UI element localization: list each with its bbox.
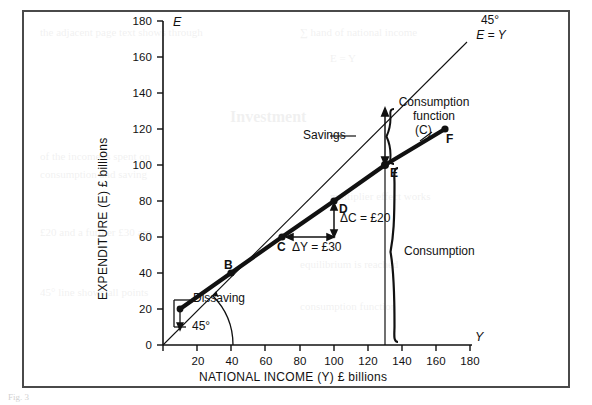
y-axis-letter: E: [173, 15, 181, 29]
label-dissaving: Dissaving: [193, 292, 245, 305]
point-label-c: C: [277, 240, 286, 254]
delta-c-arrow: [331, 203, 337, 237]
x-tick-60: 60: [258, 355, 274, 367]
x-tick-40: 40: [224, 355, 240, 367]
x-tick-160: 160: [425, 355, 447, 367]
x-tick-100: 100: [323, 355, 345, 367]
chart-plot-area: [0, 0, 592, 405]
label-45-degree: 45°: [470, 14, 510, 27]
point-a: [177, 306, 184, 313]
y-tick-160: 160: [118, 51, 152, 63]
x-tick-140: 140: [391, 355, 413, 367]
label-consumption-symbol: (C): [415, 124, 432, 137]
label-consumption: Consumption: [404, 245, 475, 258]
x-axis-letter: Y: [475, 330, 483, 344]
consumption-function-line: [180, 129, 445, 309]
label-delta-y: ΔY = £30: [292, 241, 342, 254]
label-savings: Savings: [303, 129, 346, 142]
x-tick-80: 80: [292, 355, 308, 367]
y-tick-20: 20: [118, 303, 152, 315]
y-tick-180: 180: [118, 15, 152, 27]
label-consumption-function-line2: function: [388, 110, 480, 123]
y-tick-40: 40: [118, 267, 152, 279]
label-consumption-function-line1: Consumption: [388, 96, 480, 109]
y-tick-120: 120: [118, 123, 152, 135]
x-tick-120: 120: [357, 355, 379, 367]
label-e-equals-y: E = Y: [468, 29, 514, 42]
y-tick-0: 0: [118, 339, 152, 351]
y-tick-80: 80: [118, 195, 152, 207]
point-label-d: D: [339, 202, 348, 216]
point-label-e: E: [390, 166, 398, 180]
point-label-f: F: [446, 132, 453, 146]
figure-caption: Fig. 3: [8, 392, 29, 402]
point-label-b: B: [224, 258, 233, 272]
x-tick-180: 180: [459, 355, 481, 367]
y-tick-100: 100: [118, 159, 152, 171]
label-angle-45: 45°: [192, 320, 210, 333]
consumption-brace: [391, 168, 399, 342]
y-axis-title: EXPENDITURE (E) £ billions: [96, 137, 110, 300]
y-tick-140: 140: [118, 87, 152, 99]
x-axis-ticks: [163, 345, 470, 351]
y-tick-60: 60: [118, 231, 152, 243]
x-tick-20: 20: [190, 355, 206, 367]
x-axis-title: NATIONAL INCOME (Y) £ billions: [199, 370, 387, 384]
y-axis-ticks: [157, 21, 163, 345]
